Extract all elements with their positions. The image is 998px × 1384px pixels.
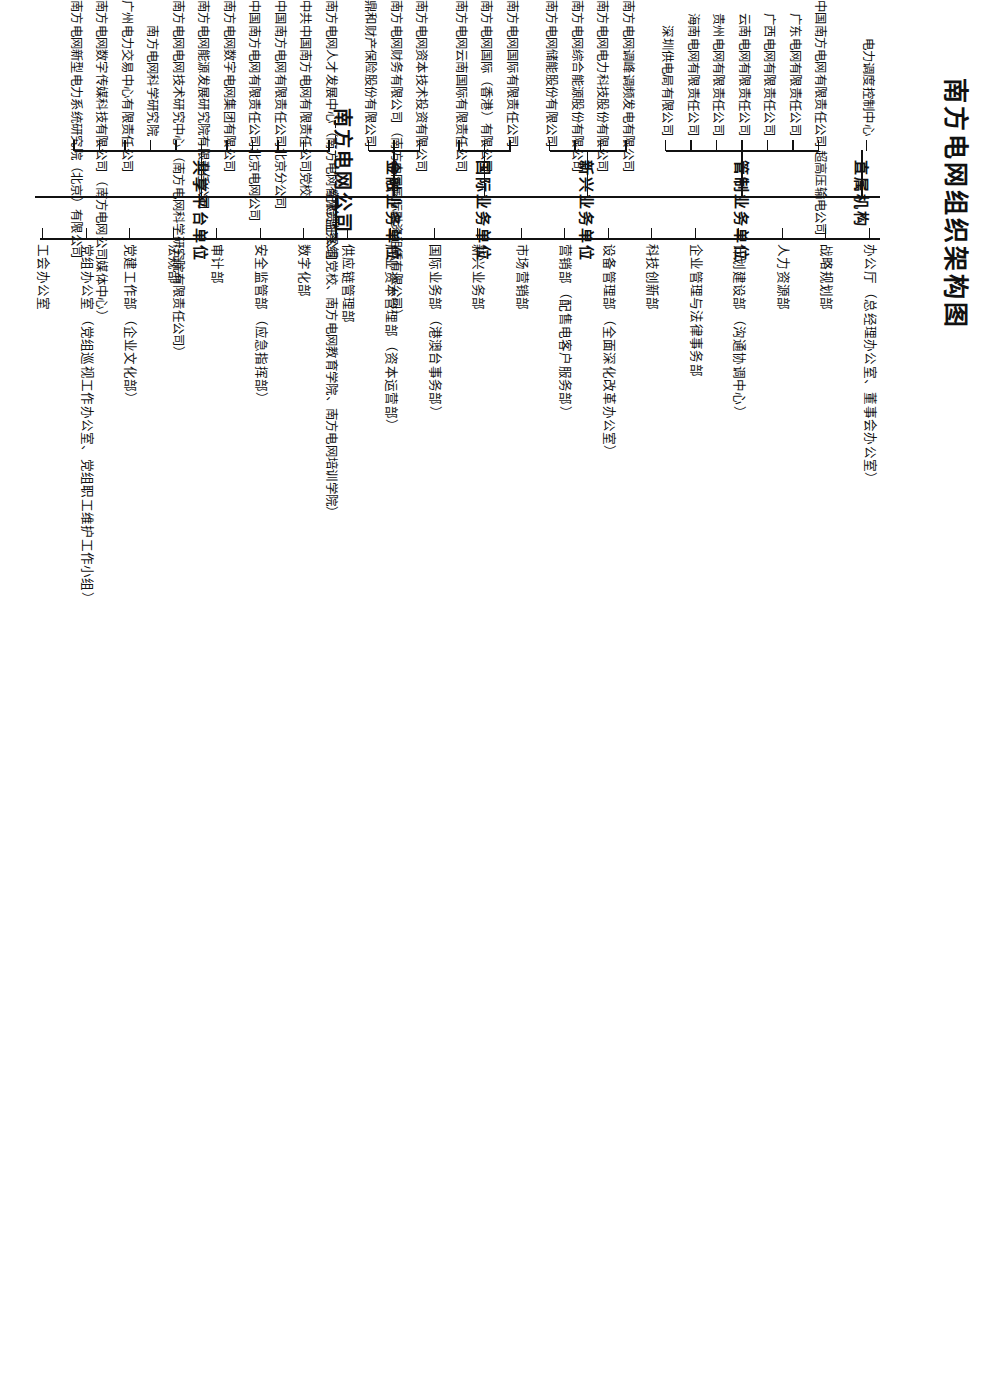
department-tick <box>129 228 130 239</box>
business-unit-name: 南方电网数字传媒科技有限公司 <box>94 0 109 172</box>
department-item[interactable]: 安全监管部（应急指挥部） <box>254 244 269 406</box>
business-unit-name: 中国南方电网有限责任公司 <box>813 0 828 148</box>
business-unit-item[interactable]: 南方电网云南国际有限责任公司 <box>453 0 468 136</box>
category-connector <box>587 150 589 196</box>
business-unit-name: 中共中国南方电网有限责任公司党校 <box>298 0 313 197</box>
business-unit-item[interactable]: 广东电网有限责任公司 <box>787 0 802 136</box>
department-tick <box>303 228 304 239</box>
department-name: 设备管理部 <box>602 244 617 311</box>
department-item[interactable]: 国际业务部（港澳台事务部） <box>428 244 443 419</box>
department-subnote: （全面深化改革办公室） <box>602 313 617 459</box>
business-unit-name: 南方电网国际（香港）有限公司 <box>479 0 494 172</box>
department-subnote: （党组巡视工作办公室、党组职工维护工作小组） <box>80 313 95 606</box>
business-unit-name: 南方电网科学研究院 <box>145 25 160 136</box>
department-tick <box>695 228 696 239</box>
department-tick <box>869 228 870 239</box>
business-unit-item[interactable]: 南方电网科学研究院 <box>144 0 159 136</box>
department-tick <box>42 228 43 239</box>
department-item[interactable]: 营销部（配售电客户服务部） <box>558 244 573 419</box>
business-unit-item[interactable]: 中国南方电网有限责任公司超高压输电公司 <box>812 0 827 136</box>
org-chart: 南方电网组织架构图 南方电网公司 纪检监察组 办公厅（总经理办公室、董事会办公室… <box>0 0 998 1384</box>
department-item[interactable]: 科技创新部 <box>645 244 660 311</box>
business-unit-item[interactable]: 贵州电网有限责任公司 <box>710 0 725 136</box>
department-item[interactable]: 数字化部 <box>297 244 312 297</box>
business-unit-item[interactable]: 鼎和财产保险股份有限公司 <box>362 0 377 136</box>
business-unit-item[interactable]: 云南电网有限责任公司 <box>736 0 751 136</box>
business-unit-item[interactable]: 南方电网电力科技股份有限公司 <box>594 0 609 136</box>
business-unit-name: 南方电网综合能源股份有限公司 <box>570 0 585 172</box>
business-unit-item[interactable]: 南方电网新型电力系统研究院（北京）有限公司 <box>68 0 83 136</box>
department-subnote: （资本运营部） <box>385 339 400 432</box>
department-item[interactable]: 设备管理部（全面深化改革办公室） <box>602 244 617 459</box>
business-unit-name: 南方电网调峰调频发电有限公司 <box>621 0 636 172</box>
department-tick <box>347 228 348 239</box>
department-rail <box>40 238 880 240</box>
department-item[interactable]: 工会办公室 <box>36 244 51 311</box>
business-unit-name: 南方电网新型电力系统研究院（北京）有限公司 <box>69 0 84 258</box>
category-spine <box>35 196 880 198</box>
business-unit-item[interactable]: 中国南方电网有限责任公司北京分公司 <box>272 0 287 136</box>
business-unit-name: 中国南方电网有限责任公司北京电网公司 <box>247 0 262 221</box>
unit-tick <box>741 140 742 151</box>
unit-tick <box>767 140 768 151</box>
business-unit-item[interactable]: 南方电网电网技术研究中心（南方电网科学研究院有限责任公司） <box>170 0 185 136</box>
department-name: 党建工作部 <box>124 244 139 311</box>
department-item[interactable]: 计划建设部（沟通协调中心） <box>732 244 747 419</box>
business-unit-subnote: （南方电网有限责任公司党校、南方电网教育学院、南方电网培训学院） <box>324 125 339 519</box>
business-unit-item[interactable]: 电力调度控制中心 <box>860 0 875 136</box>
business-unit-item[interactable]: 南方电网综合能源股份有限公司 <box>569 0 584 136</box>
department-tick <box>564 228 565 239</box>
business-unit-name: 南方电网数字电网集团有限公司 <box>222 0 237 172</box>
department-tick <box>521 228 522 239</box>
business-unit-item[interactable]: 南方电网人才发展中心（南方电网有限责任公司党校、南方电网教育学院、南方电网培训学… <box>323 0 338 136</box>
business-unit-item[interactable]: 广州电力交易中心有限责任公司 <box>119 0 134 136</box>
business-unit-item[interactable]: 南方电网数字传媒科技有限公司（南方电网公司媒体中心） <box>93 0 108 136</box>
department-item[interactable]: 市场营销部 <box>515 244 530 311</box>
business-unit-name: 海南电网有限责任公司 <box>686 13 701 136</box>
department-subnote: （应急指挥部） <box>254 313 269 406</box>
department-name: 企业管理与法律事务部 <box>689 244 704 377</box>
business-unit-name: 广西电网有限责任公司 <box>762 13 777 136</box>
business-unit-item[interactable]: 南方电网调峰调频发电有限公司 <box>620 0 635 136</box>
business-unit-item[interactable]: 南方电网能源发展研究院有限责任公司 <box>195 0 210 136</box>
business-unit-item[interactable]: 广西电网有限责任公司 <box>761 0 776 136</box>
unit-tick <box>690 140 691 151</box>
business-unit-name: 深圳供电局有限公司 <box>660 25 675 136</box>
department-name: 科技创新部 <box>646 244 661 311</box>
department-name: 工会办公室 <box>37 244 52 311</box>
unit-tick <box>866 140 867 151</box>
unit-tick <box>665 140 666 151</box>
business-unit-item[interactable]: 中共中国南方电网有限责任公司党校 <box>297 0 312 136</box>
business-unit-name: 广州电力交易中心有限责任公司 <box>120 0 135 172</box>
department-item[interactable]: 企业管理与法律事务部 <box>689 244 704 377</box>
business-unit-name: 南方电网能源发展研究院有限责任公司 <box>196 0 211 209</box>
department-subnote: （沟通协调中心） <box>733 313 748 419</box>
department-subnote: （总经理办公室、董事会办公室） <box>863 286 878 486</box>
business-unit-item[interactable]: 南方电网国际（香港）有限公司 <box>478 0 493 136</box>
department-item[interactable]: 人力资源部 <box>776 244 791 311</box>
rotated-chart-wrapper: 南方电网组织架构图 南方电网公司 纪检监察组 办公厅（总经理办公室、董事会办公室… <box>0 0 998 1384</box>
business-unit-name: 南方电网电网技术研究中心 <box>171 0 186 148</box>
business-unit-item[interactable]: 深圳供电局有限公司 <box>659 0 674 136</box>
business-unit-name: 南方电网电力科技股份有限公司 <box>595 0 610 172</box>
business-unit-name: 南方电网财务有限公司 <box>389 0 404 123</box>
business-unit-item[interactable]: 南方电网国际有限责任公司 <box>504 0 519 136</box>
department-item[interactable]: 办公厅（总经理办公室、董事会办公室） <box>863 244 878 485</box>
department-item[interactable]: 供应链管理部 <box>341 244 356 324</box>
department-tick <box>434 228 435 239</box>
department-tick <box>782 228 783 239</box>
business-unit-item[interactable]: 海南电网有限责任公司 <box>685 0 700 136</box>
department-subnote: （配售电客户服务部） <box>559 286 574 419</box>
business-unit-item[interactable]: 中国南方电网有限责任公司北京电网公司 <box>246 0 261 136</box>
department-item[interactable]: 党建工作部（企业文化部） <box>123 244 138 406</box>
department-name: 审计部 <box>211 244 226 284</box>
business-unit-item[interactable]: 南方电网数字电网集团有限公司 <box>221 0 236 136</box>
business-unit-item[interactable]: 南方电网财务有限公司（南方电网国际融资租赁有限公司） <box>388 0 403 136</box>
business-unit-item[interactable]: 南方电网资本技术投资有限公司 <box>413 0 428 136</box>
department-item[interactable]: 战略规划部 <box>819 244 834 311</box>
business-unit-item[interactable]: 南方电网储能股份有限公司 <box>543 0 558 136</box>
department-item[interactable]: 审计部 <box>210 244 225 284</box>
business-unit-name: 电力调度控制中心 <box>861 38 876 136</box>
department-item[interactable]: 党组办公室（党组巡视工作办公室、党组职工维护工作小组） <box>80 244 95 605</box>
department-tick <box>260 228 261 239</box>
